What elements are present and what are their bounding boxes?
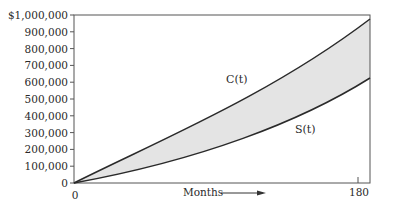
y-tick-label: 800,000 [25, 43, 68, 55]
y-tick-label: 300,000 [25, 127, 68, 139]
y-tick-label: 200,000 [25, 143, 68, 155]
y-axis-labels: $1,000,000 900,000 800,000 700,000 600,0… [8, 9, 68, 189]
y-tick-label: 700,000 [25, 59, 68, 71]
arrow-right-icon [221, 191, 266, 196]
c-curve-label: C(t) [226, 73, 247, 86]
y-tick-label: 600,000 [25, 76, 68, 88]
y-tick-label: 0 [61, 177, 68, 189]
x-axis-title: Months [183, 186, 223, 198]
x-tick-label: 180 [349, 186, 369, 198]
y-tick-label: 400,000 [25, 110, 68, 122]
y-tick-label: 900,000 [25, 26, 68, 38]
y-tick-label: 100,000 [25, 160, 68, 172]
y-tick-label: 500,000 [25, 93, 68, 105]
shaded-region [74, 19, 370, 183]
y-tick-label: $1,000,000 [8, 9, 68, 21]
s-curve-label: S(t) [295, 123, 316, 136]
x-tick-label: 0 [72, 189, 79, 201]
chart: $1,000,000 900,000 800,000 700,000 600,0… [0, 0, 393, 211]
